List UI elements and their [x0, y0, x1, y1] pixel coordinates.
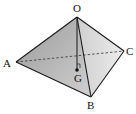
label-c: C — [126, 45, 133, 57]
label-b: B — [87, 99, 94, 111]
label-o: O — [73, 2, 81, 14]
label-a: A — [3, 57, 11, 69]
tetrahedron-diagram: O A C B G — [0, 0, 136, 114]
label-g: G — [74, 72, 82, 84]
